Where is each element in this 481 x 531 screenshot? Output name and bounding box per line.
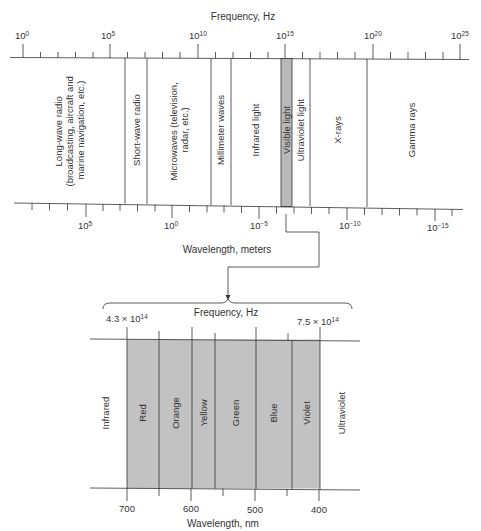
- freq-tick-label: 105: [101, 30, 116, 41]
- frequency-axis: [10, 44, 469, 60]
- svg-text:500: 500: [247, 504, 263, 515]
- wavelength-tick-label: 10−10: [339, 220, 361, 231]
- infrared-label: Infrared: [100, 397, 111, 430]
- band-gamma-rays: Gamma rays: [406, 103, 417, 158]
- freq-tick-label: 100: [15, 30, 30, 41]
- band-long-wave-radio: Long-wave radio (broadcasting, aircraft …: [53, 73, 86, 186]
- band-microwaves: Microwaves (television, radar, etc.): [168, 80, 190, 181]
- band-visible-light: Visible light: [281, 106, 292, 154]
- band-dividers: [125, 58, 367, 207]
- freq-tick-label: 1025: [451, 30, 469, 41]
- svg-text:400: 400: [311, 504, 327, 515]
- color-band-violet: Violet: [301, 401, 312, 425]
- visible-frequency-title: Frequency, Hz: [194, 307, 258, 318]
- nm-tick-labels: 700 600 500 400: [119, 503, 327, 515]
- freq-tick-label: 1010: [189, 30, 207, 41]
- band-short-wave-radio: Short-wave radio: [131, 94, 142, 166]
- visible-freq-right-label: 7.5 × 1014: [297, 316, 339, 327]
- band-x-rays: X-rays: [332, 116, 343, 144]
- visible-freq-left-label: 4.3 × 1014: [106, 313, 148, 324]
- frequency-axis-title: Frequency, Hz: [211, 11, 275, 22]
- color-band-red: Red: [137, 404, 148, 421]
- nm-axis-title: Wavelength, nm: [187, 518, 259, 529]
- wavelength-axis: [14, 203, 463, 221]
- color-band-green: Green: [230, 400, 241, 426]
- color-band-yellow: Yellow: [198, 399, 209, 426]
- wavelength-axis-title: Wavelength, meters: [183, 244, 272, 255]
- color-band-blue: Blue: [268, 403, 279, 422]
- zoom-connector-arrow: [228, 214, 319, 296]
- svg-text:600: 600: [183, 503, 199, 514]
- band-labels: Long-wave radio (broadcasting, aircraft …: [53, 73, 417, 186]
- wavelength-tick-labels: 105 100 10−5 10−10 10−15: [78, 220, 449, 233]
- band-millimeter-waves: Millimeter waves: [215, 95, 226, 165]
- freq-tick-label: 1015: [276, 30, 294, 41]
- frequency-tick-labels: 100 105 1010 1015 1020 1025: [15, 30, 469, 41]
- visible-spectrum-fill: [127, 340, 320, 489]
- freq-tick-label: 1020: [364, 30, 382, 41]
- wavelength-tick-label: 10−5: [250, 220, 268, 231]
- ultraviolet-label: Ultraviolet: [336, 392, 347, 435]
- color-band-orange: Orange: [170, 397, 181, 429]
- svg-text:700: 700: [119, 503, 135, 514]
- wavelength-tick-label: 105: [78, 220, 93, 231]
- wavelength-tick-label: 100: [164, 220, 179, 231]
- band-infrared-light: Infrared light: [250, 103, 261, 156]
- electromagnetic-spectrum-diagram: Frequency, Hz 100 105 1010 1015 1020 102…: [0, 0, 481, 531]
- wavelength-tick-label: 10−15: [427, 222, 449, 233]
- band-ultraviolet-light: Ultraviolet light: [295, 98, 306, 161]
